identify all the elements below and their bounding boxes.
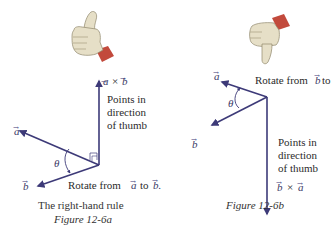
points-line2: direction <box>107 106 147 118</box>
arrow-over-icon: → <box>120 75 126 83</box>
theta-label: θ <box>228 97 234 109</box>
theta-arc <box>235 88 240 108</box>
points-line1: Points in <box>278 136 317 148</box>
arrow-over-icon: → <box>13 124 19 132</box>
caption-figure-a: Figure 12-6a <box>53 213 112 225</box>
bxa-label-times: × <box>287 181 293 193</box>
right-hand-rule-diagram: a → × b → Points in direction of thumb a… <box>0 0 334 236</box>
arrow-over-icon: → <box>152 177 158 185</box>
vector-b <box>212 97 267 125</box>
arrow-over-icon: → <box>213 69 219 77</box>
points-line1: Points in <box>107 93 146 105</box>
rotate-prefix: Rotate from <box>68 179 121 191</box>
points-line3: of thumb <box>278 162 319 174</box>
arrow-over-icon: → <box>297 180 303 188</box>
theta-label: θ <box>54 157 60 169</box>
figure-b: a → Rotate from b → to θ b → Points in d… <box>191 14 331 214</box>
axb-label-times: × <box>112 75 118 87</box>
thumbs-down-hand-icon <box>250 14 290 64</box>
points-line2: direction <box>278 149 318 161</box>
arrow-over-icon: → <box>191 136 197 144</box>
points-line3: of thumb <box>107 119 148 131</box>
arrow-over-icon: → <box>101 78 107 86</box>
caption-figure-b: Figure 12-6b <box>225 199 284 211</box>
vector-a <box>20 131 99 165</box>
arrow-over-icon: → <box>22 178 28 186</box>
right-angle-marker <box>90 153 97 160</box>
arrow-over-icon: → <box>276 179 282 187</box>
figure-a: a → × b → Points in direction of thumb a… <box>13 11 161 225</box>
arrow-over-icon: → <box>130 178 136 186</box>
rotate-prefix: Rotate from <box>255 74 308 86</box>
caption-title: The right-hand rule <box>38 199 124 211</box>
arrow-over-icon: → <box>314 72 320 80</box>
rotate-to: to <box>322 74 331 86</box>
rotate-to: to <box>140 179 149 191</box>
thumbs-up-hand-icon <box>72 11 114 62</box>
